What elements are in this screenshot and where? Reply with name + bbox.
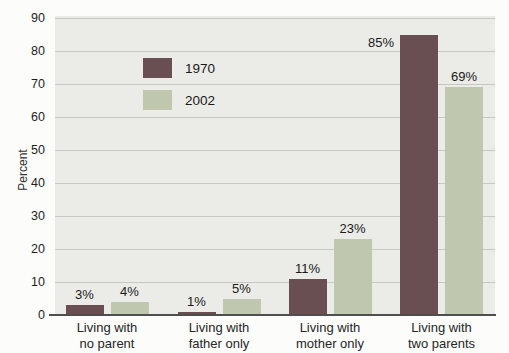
bar-1970-2 (289, 279, 327, 315)
category-label-0: Living withno parent (47, 320, 167, 352)
x-axis-line (49, 314, 496, 316)
y-tick-label-70: 70 (14, 77, 45, 91)
bar-chart: Percent 1970 2002 3%1%11%85%4%5%23%69% 0… (0, 0, 509, 353)
y-tick-label-80: 80 (14, 44, 45, 58)
legend-label-2002: 2002 (185, 93, 215, 108)
value-label-1970-1: 1% (169, 295, 225, 309)
value-label-2002-2: 23% (325, 222, 381, 236)
category-label-3: Living withtwo parents (382, 320, 502, 352)
legend-swatch-2002 (143, 90, 172, 110)
legend: 1970 2002 (143, 58, 215, 122)
y-tick-label-30: 30 (14, 209, 45, 223)
y-tick-label-20: 20 (14, 242, 45, 256)
legend-row-2002: 2002 (143, 90, 215, 110)
category-label-2: Living withmother only (270, 320, 390, 352)
bar-2002-2 (334, 239, 372, 315)
y-tick-label-90: 90 (14, 11, 45, 25)
bar-2002-3 (445, 87, 483, 315)
bar-1970-3 (400, 35, 438, 316)
y-tick-label-40: 40 (14, 176, 45, 190)
value-label-1970-3: 85% (338, 36, 394, 50)
value-label-2002-0: 4% (102, 285, 158, 299)
bar-2002-1 (223, 299, 261, 316)
category-label-1: Living withfather only (159, 320, 279, 352)
y-tick-label-50: 50 (14, 143, 45, 157)
bar-2002-0 (111, 302, 149, 315)
legend-swatch-1970 (143, 58, 172, 78)
value-label-1970-2: 11% (280, 262, 336, 276)
gridline-90 (55, 18, 495, 19)
y-tick-label-60: 60 (14, 110, 45, 124)
legend-row-1970: 1970 (143, 58, 215, 78)
legend-label-1970: 1970 (185, 61, 215, 76)
plot-area: 1970 2002 3%1%11%85%4%5%23%69% (55, 16, 495, 315)
value-label-2002-3: 69% (436, 70, 492, 84)
y-tick-label-0: 0 (14, 308, 45, 322)
y-tick-label-10: 10 (14, 275, 45, 289)
value-label-2002-1: 5% (214, 282, 270, 296)
